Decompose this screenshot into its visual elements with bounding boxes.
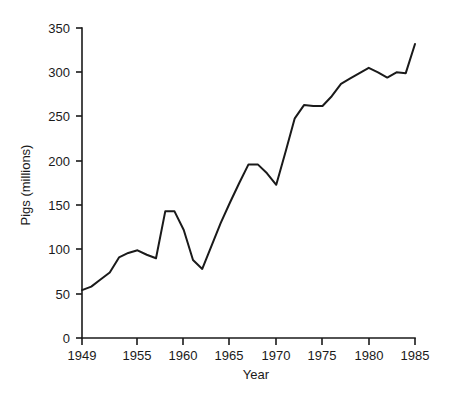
x-tick-label-1965: 1965 [215, 348, 244, 363]
y-tick-label-350: 350 [48, 21, 70, 36]
chart-container: 350 300 250 200 150 100 50 0 Pigs (milli… [0, 0, 453, 397]
y-axis-title: Pigs (millions) [18, 145, 33, 226]
x-tick-label-1955: 1955 [123, 348, 152, 363]
x-axis-title: Year [243, 367, 270, 382]
y-tick-label-300: 300 [48, 65, 70, 80]
x-tick-label-1970: 1970 [262, 348, 291, 363]
y-tick-label-250: 250 [48, 109, 70, 124]
y-tick-label-50: 50 [56, 287, 70, 302]
x-tick-label-1980: 1980 [355, 348, 384, 363]
x-tick-label-1960: 1960 [169, 348, 198, 363]
x-tick-label-1949: 1949 [68, 348, 97, 363]
y-tick-label-150: 150 [48, 198, 70, 213]
pigs-line-chart: 350 300 250 200 150 100 50 0 Pigs (milli… [0, 0, 453, 397]
y-tick-label-100: 100 [48, 242, 70, 257]
x-tick-label-1985: 1985 [401, 348, 430, 363]
y-tick-label-200: 200 [48, 154, 70, 169]
x-tick-label-1975: 1975 [308, 348, 337, 363]
y-tick-label-0: 0 [63, 331, 70, 346]
